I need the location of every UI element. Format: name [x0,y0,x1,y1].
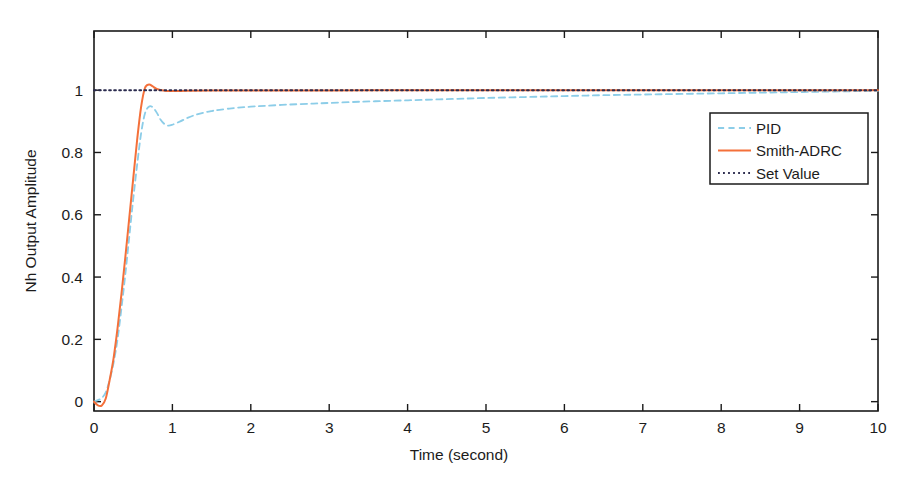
y-tick-labels: 00.20.40.60.81 [61,82,83,410]
x-tick-label: 6 [560,419,569,436]
legend-label-pid: PID [756,120,781,137]
x-tick-label: 8 [717,419,726,436]
y-tick-label: 0 [74,393,83,410]
x-tick-label: 1 [168,419,177,436]
chart-legend: PIDSmith-ADRCSet Value [710,113,868,184]
y-tick-label: 0.4 [61,269,83,286]
axis-frame [94,31,878,411]
chart-figure: 012345678910 00.20.40.60.81 Time (second… [0,0,919,480]
x-tick-label: 0 [90,419,99,436]
legend-label-set-value: Set Value [756,165,820,182]
y-axis-title: Nh Output Amplitude [22,149,39,292]
x-tick-labels: 012345678910 [90,419,887,436]
x-tick-label: 5 [482,419,491,436]
x-tick-label: 10 [869,419,887,436]
y-tick-label: 1 [74,82,83,99]
y-tick-label: 0.8 [61,144,83,161]
x-tick-label: 7 [638,419,647,436]
x-axis-title: Time (second) [410,446,508,463]
x-tick-label: 2 [246,419,255,436]
x-tick-label: 4 [403,419,412,436]
x-tick-label: 9 [795,419,804,436]
x-tick-label: 3 [325,419,334,436]
y-tick-label: 0.6 [61,206,83,223]
legend-label-smith-adrc: Smith-ADRC [756,142,842,159]
y-tick-label: 0.2 [61,331,83,348]
plot-canvas: 012345678910 00.20.40.60.81 Time (second… [0,0,919,480]
